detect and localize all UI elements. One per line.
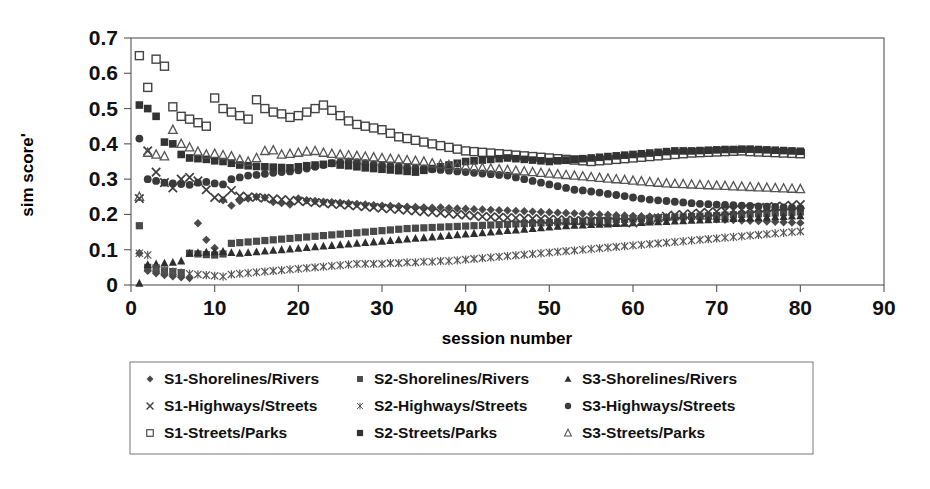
marker-filled-circle [730, 201, 738, 209]
marker-filled-square-dark [780, 147, 788, 155]
marker-filled-square-dark [420, 167, 428, 175]
marker-filled-square-dark [604, 153, 612, 161]
marker-filled-circle [529, 177, 537, 185]
marker-filled-square-dark [763, 146, 771, 154]
y-axis-title: sim score' [18, 133, 37, 216]
marker-filled-circle [177, 180, 185, 188]
marker-filled-square-dark [696, 147, 704, 155]
y-tick-label: 0.2 [89, 202, 118, 225]
marker-filled-circle [646, 196, 654, 204]
marker-filled-square-dark [295, 163, 303, 171]
marker-filled-square [320, 232, 327, 239]
marker-filled-square [420, 224, 427, 231]
marker-filled-square-dark [587, 154, 595, 162]
marker-filled-circle [487, 170, 495, 178]
marker-filled-square-dark [487, 156, 495, 164]
marker-filled-circle [194, 179, 202, 187]
marker-filled-square-dark [286, 164, 294, 172]
marker-filled-square [295, 234, 302, 241]
marker-filled-square-dark [336, 161, 344, 169]
x-tick-label: 20 [287, 296, 310, 319]
marker-filled-square-dark [721, 146, 729, 154]
marker-filled-square [270, 236, 277, 243]
marker-filled-square-dark [579, 155, 587, 163]
marker-filled-circle [780, 203, 788, 211]
marker-filled-square-dark [663, 148, 671, 156]
marker-filled-square [370, 228, 377, 235]
marker-filled-square-dark [546, 158, 554, 166]
marker-filled-circle [721, 201, 729, 209]
marker-filled-circle [228, 175, 236, 183]
marker-filled-square-dark [705, 146, 713, 154]
marker-filled-square-dark [186, 154, 194, 162]
legend-label: S3-Highways/Streets [582, 397, 735, 414]
marker-filled-circle [796, 204, 804, 212]
marker-filled-square-dark [679, 147, 687, 155]
marker-filled-square [353, 229, 360, 236]
marker-filled-square-dark [261, 163, 269, 171]
marker-filled-square-dark [621, 151, 629, 159]
marker-filled-square-dark [788, 147, 796, 155]
marker-filled-square-dark [746, 145, 754, 153]
marker-filled-square-dark [638, 150, 646, 158]
marker-filled-circle [562, 184, 570, 192]
y-tick-label: 0.4 [89, 132, 119, 155]
marker-filled-square-dark [387, 166, 395, 174]
marker-filled-circle [671, 198, 679, 206]
marker-filled-square-dark [144, 105, 152, 113]
marker-filled-circle [663, 197, 671, 205]
marker-filled-square [328, 231, 335, 238]
marker-filled-square-dark [730, 146, 738, 154]
marker-filled-circle [654, 196, 662, 204]
marker-filled-square [136, 222, 143, 229]
marker-filled-square-dark [278, 164, 286, 172]
marker-filled-circle [596, 189, 604, 197]
marker-filled-square-dark [370, 165, 378, 173]
marker-filled-square [387, 226, 394, 233]
marker-filled-square-dark [357, 430, 363, 436]
marker-filled-square [404, 225, 411, 232]
marker-filled-square [357, 376, 363, 382]
y-tick-label: 0.3 [89, 167, 118, 190]
figure-background [0, 0, 930, 489]
marker-filled-circle [545, 181, 553, 189]
x-tick-label: 80 [789, 296, 812, 319]
marker-filled-circle [604, 190, 612, 198]
marker-filled-square-dark [629, 151, 637, 159]
marker-filled-square [487, 221, 494, 228]
marker-filled-square-dark [311, 161, 319, 169]
marker-filled-square-dark [378, 165, 386, 173]
marker-filled-square-dark [797, 147, 805, 155]
marker-filled-square [479, 222, 486, 229]
marker-filled-circle [755, 202, 763, 210]
x-tick-label: 60 [621, 296, 644, 319]
marker-filled-square-dark [428, 165, 436, 173]
marker-filled-square-dark [671, 147, 679, 155]
marker-filled-square [437, 224, 444, 231]
marker-filled-square [253, 238, 260, 245]
marker-filled-square-dark [303, 162, 311, 170]
marker-filled-circle [763, 203, 771, 211]
marker-filled-square-dark [596, 153, 604, 161]
marker-filled-square [378, 227, 385, 234]
marker-filled-square-dark [361, 164, 369, 172]
marker-filled-square-dark [194, 155, 202, 163]
marker-filled-circle [679, 199, 687, 207]
marker-filled-square-dark [537, 157, 545, 165]
marker-filled-circle [144, 175, 152, 183]
marker-filled-circle [738, 202, 746, 210]
marker-filled-circle [520, 175, 528, 183]
marker-filled-square-dark [320, 161, 328, 169]
marker-filled-square [303, 233, 310, 240]
marker-filled-square-dark [228, 159, 236, 167]
marker-filled-square [470, 222, 477, 229]
legend-label: S1-Streets/Parks [164, 424, 287, 441]
x-tick-label: 10 [203, 296, 226, 319]
marker-filled-square-dark [646, 149, 654, 157]
marker-filled-circle [579, 187, 587, 195]
marker-filled-square [311, 233, 318, 240]
marker-filled-circle [788, 204, 796, 212]
marker-filled-square-dark [269, 163, 277, 171]
marker-filled-square-dark [211, 157, 219, 165]
legend-label: S1-Shorelines/Rivers [164, 370, 319, 387]
